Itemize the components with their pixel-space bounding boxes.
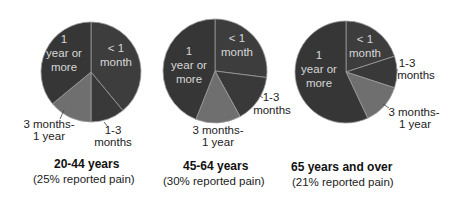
label-lt1-month: < 1 [108, 42, 124, 54]
caption-title-20-44: 20-44 years [54, 157, 119, 171]
label-lt1-month-2: month [349, 47, 381, 59]
label-1-3-months: 1-3 [263, 91, 280, 103]
label-1-3-months: 1-3 [399, 57, 416, 69]
label-1yr-plus-3: more [306, 77, 332, 89]
caption-title-65-over: 65 years and over [291, 160, 392, 174]
label-1yr-plus-2: year or [171, 59, 207, 71]
label-lt1-month-2: month [221, 46, 253, 58]
label-1-3-months-2: months [94, 136, 132, 148]
caption-subtitle-45-64: (30% reported pain) [163, 175, 265, 187]
caption-subtitle-65-over: (21% reported pain) [292, 176, 394, 188]
label-1yr-plus-2: year or [301, 63, 337, 75]
label-1yr-plus-2: year or [46, 47, 82, 59]
label-3mo-1yr: 3 months- [388, 106, 439, 118]
label-3mo-1yr: 3 months- [192, 124, 243, 136]
caption-title-45-64: 45-64 years [183, 159, 248, 173]
label-1yr-plus: 1 [61, 33, 67, 45]
label-3mo-1yr-2: 1 year [202, 136, 234, 148]
pie-45-64 [163, 19, 267, 123]
label-1-3-months: 1-3 [105, 124, 122, 136]
label-1yr-plus-3: more [51, 61, 77, 73]
label-3mo-1yr-2: 1 year [399, 118, 431, 130]
label-3mo-1yr-2: 1 year [33, 130, 65, 142]
label-lt1-month: < 1 [357, 33, 373, 45]
caption-subtitle-20-44: (25% reported pain) [33, 173, 135, 185]
label-1yr-plus: 1 [186, 45, 192, 57]
label-3mo-1yr: 3 months- [23, 118, 74, 130]
label-lt1-month: < 1 [229, 32, 245, 44]
label-1-3-months-2: months [253, 104, 291, 116]
label-1-3-months-2: months [397, 69, 435, 81]
label-1yr-plus: 1 [316, 49, 322, 61]
label-1yr-plus-3: more [176, 73, 202, 85]
label-lt1-month-2: month [100, 56, 132, 68]
